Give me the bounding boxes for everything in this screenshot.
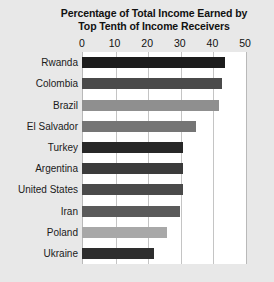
bar-rwanda	[82, 57, 225, 68]
bar-poland	[82, 227, 167, 238]
category-label-united-states: United States	[0, 184, 78, 195]
bar-chart-figure: Percentage of Total Income Earned by Top…	[0, 0, 274, 282]
category-label-rwanda: Rwanda	[0, 57, 78, 68]
x-tick-label-30: 30	[165, 37, 195, 49]
bar-iran	[82, 206, 180, 217]
category-label-ukraine: Ukraine	[0, 248, 78, 259]
chart-title: Percentage of Total Income Earned by Top…	[40, 7, 268, 33]
x-tick-label-40: 40	[197, 37, 227, 49]
bar-united-states	[82, 184, 183, 195]
category-label-brazil: Brazil	[0, 100, 78, 111]
y-axis-category-labels: RwandaColombiaBrazilEl SalvadorTurkeyArg…	[0, 52, 78, 264]
category-label-turkey: Turkey	[0, 142, 78, 153]
x-tick-label-0: 0	[67, 37, 97, 49]
bar-turkey	[82, 142, 183, 153]
category-label-iran: Iran	[0, 206, 78, 217]
x-tick-label-50: 50	[230, 37, 260, 49]
bar-ukraine	[82, 248, 154, 259]
bar-brazil	[82, 100, 219, 111]
category-label-el-salvador: El Salvador	[0, 121, 78, 132]
bar-el-salvador	[82, 121, 196, 132]
category-label-argentina: Argentina	[0, 163, 78, 174]
chart-title-line-2: Top Tenth of Income Receivers	[40, 20, 268, 33]
chart-title-line-1: Percentage of Total Income Earned by	[40, 7, 268, 20]
bars-layer	[82, 52, 245, 264]
x-axis-tick-labels: 01020304050	[82, 37, 245, 50]
category-label-poland: Poland	[0, 227, 78, 238]
category-label-colombia: Colombia	[0, 78, 78, 89]
bar-colombia	[82, 78, 222, 89]
x-tick-label-10: 10	[100, 37, 130, 49]
bar-argentina	[82, 163, 183, 174]
x-tick-label-20: 20	[132, 37, 162, 49]
